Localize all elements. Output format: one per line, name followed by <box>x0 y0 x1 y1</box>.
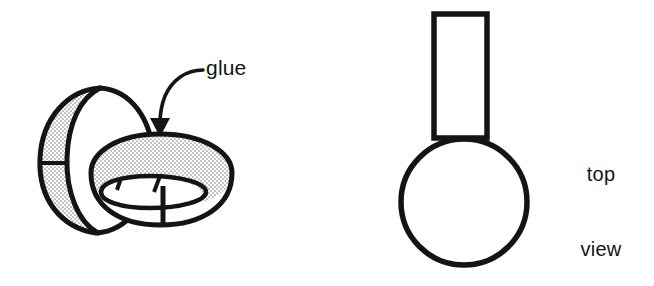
top-view-circle <box>401 139 527 265</box>
figure-canvas <box>0 0 654 286</box>
right-illustration <box>401 14 527 265</box>
top-view-rectangle <box>434 14 487 138</box>
top-view-label-line-2: view <box>570 237 632 262</box>
top-view-label: top view <box>570 112 632 286</box>
glue-label: glue <box>206 56 247 79</box>
horizontal-ring <box>91 134 232 225</box>
glue-arrow-curve <box>160 70 203 124</box>
top-view-label-line-1: top <box>570 162 632 187</box>
left-illustration <box>38 70 232 233</box>
glue-arrow <box>150 70 203 137</box>
figure-root: glue top view <box>0 0 654 286</box>
